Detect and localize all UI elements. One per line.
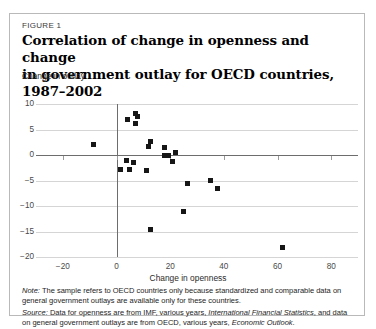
source-italic-b: Economic Outlook [232, 318, 293, 327]
data-point [215, 186, 220, 191]
note-body: The sample refers to OECD countries only… [22, 286, 341, 305]
gridline-horizontal [36, 257, 358, 258]
gridline-horizontal [36, 104, 358, 105]
x-axis-tick-mark [331, 156, 332, 160]
data-point [144, 168, 149, 173]
note-text: Note: The sample refers to OECD countrie… [22, 286, 356, 306]
y-axis-tick-label: 10 [10, 100, 34, 108]
data-point [133, 121, 138, 126]
gridline-horizontal [36, 130, 358, 131]
gridline-horizontal [36, 181, 358, 182]
figure-label: FIGURE 1 [22, 21, 61, 30]
figure-card: FIGURE 1 Correlation of change in openne… [9, 13, 365, 316]
note-prefix: Note: [22, 286, 40, 295]
source-body-c: . [293, 318, 295, 327]
y-axis-title: Change in outlay [22, 71, 85, 81]
gridline-horizontal [36, 232, 358, 233]
y-axis-tick-label: 0 [10, 151, 34, 159]
data-point [135, 114, 140, 119]
data-point [125, 117, 130, 122]
source-italic-a: International Financial Statistics [208, 308, 313, 317]
y-axis-tick-label: −15 [10, 228, 34, 236]
data-point [166, 153, 171, 158]
figure-title-line-1: Correlation of change in openness and ch… [22, 32, 358, 66]
x-axis-tick-mark [63, 156, 64, 160]
x-zero-axis-line [117, 104, 118, 257]
source-prefix: Source: [22, 308, 48, 317]
x-axis-tick-label: −20 [48, 263, 78, 271]
y-axis-tick-label: −10 [10, 202, 34, 210]
y-zero-axis-line [36, 155, 358, 156]
data-point [118, 167, 123, 172]
source-text: Source: Data for openness are from IMF, … [22, 308, 356, 328]
data-point [162, 145, 167, 150]
data-point [208, 178, 213, 183]
data-point [146, 144, 151, 149]
x-axis-tick-label: 20 [155, 263, 185, 271]
x-axis-tick-label: 40 [209, 263, 239, 271]
x-axis-tick-mark [278, 156, 279, 160]
data-point [185, 181, 190, 186]
data-point [124, 158, 129, 163]
y-axis-tick-label: −5 [10, 177, 34, 185]
data-point [181, 209, 186, 214]
data-point [91, 142, 96, 147]
gridline-horizontal [36, 206, 358, 207]
x-axis-title: Change in openness [10, 273, 366, 283]
data-point [131, 160, 136, 165]
x-axis-tick-label: 60 [263, 263, 293, 271]
y-axis-tick-label: 5 [10, 126, 34, 134]
x-axis-tick-label: 80 [316, 263, 346, 271]
x-axis-tick-mark [117, 156, 118, 160]
data-point [173, 150, 178, 155]
data-point [127, 167, 132, 172]
x-axis-tick-label: 0 [102, 263, 132, 271]
x-axis-tick-mark [224, 156, 225, 160]
data-point [170, 159, 175, 164]
y-axis-tick-label: −20 [10, 253, 34, 261]
scatter-plot: 1050−5−10−15−20−20020406080 [10, 82, 366, 272]
data-point [280, 245, 285, 250]
data-point [148, 227, 153, 232]
source-body-a: Data for openness are from IMF, various … [48, 308, 208, 317]
